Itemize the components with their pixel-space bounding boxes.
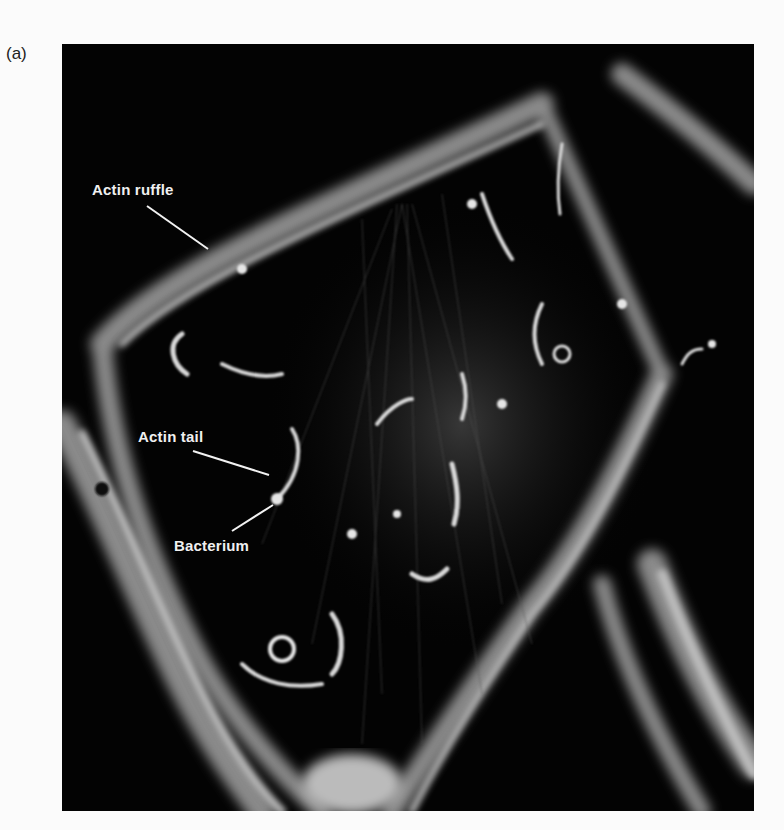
label-bacterium: Bacterium [174, 537, 249, 554]
label-actin-ruffle: Actin ruffle [92, 181, 174, 198]
micrograph: Actin ruffle Actin tail Bacterium [62, 44, 754, 811]
label-actin-tail: Actin tail [138, 428, 203, 445]
panel-label: (a) [6, 44, 27, 64]
